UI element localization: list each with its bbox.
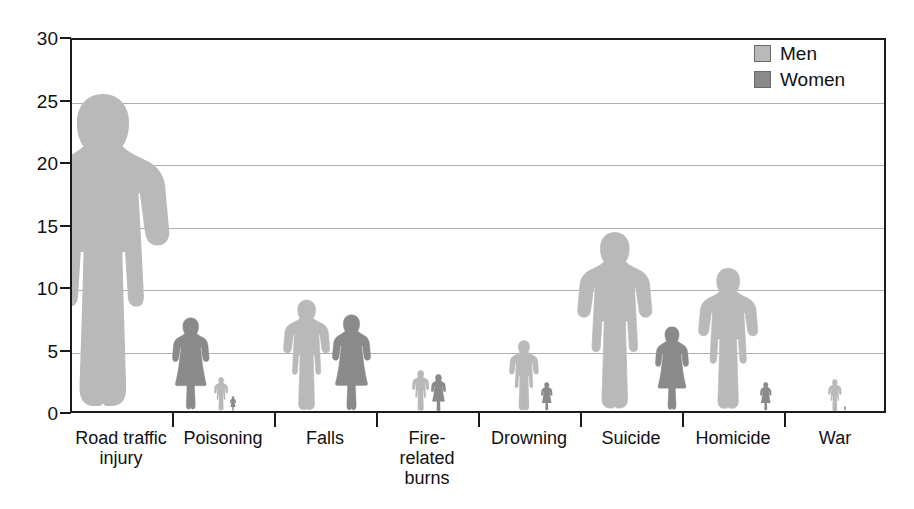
woman-figure-icon xyxy=(230,396,236,411)
x-axis-separator-tick xyxy=(376,413,378,427)
x-axis-category-label: Homicide xyxy=(682,428,784,448)
x-axis-ticks xyxy=(70,413,886,427)
legend-swatch-icon xyxy=(754,45,771,62)
legend-label: Women xyxy=(780,70,845,89)
man-figure-icon xyxy=(283,299,330,412)
figure-group xyxy=(378,40,480,411)
x-axis-separator-tick xyxy=(580,413,582,427)
y-axis-tick-mark xyxy=(60,37,71,39)
x-axis-category-label: Falls xyxy=(274,428,376,448)
woman-figure-icon xyxy=(431,374,446,412)
x-axis-separator-tick xyxy=(172,413,174,427)
legend-item-women[interactable]: Women xyxy=(754,70,874,89)
man-figure-icon xyxy=(509,340,539,411)
x-axis-category-label-line: Homicide xyxy=(682,428,784,448)
figure-group xyxy=(480,40,582,411)
y-axis-tick-mark xyxy=(60,412,71,414)
y-axis-tick-label: 20 xyxy=(24,154,58,173)
y-axis-tick-mark xyxy=(60,225,71,227)
x-axis-category-label-line: related xyxy=(376,448,478,468)
x-axis-separator-tick xyxy=(784,413,786,427)
pictograph-chart: 051015202530 Road trafficinjuryPoisoning… xyxy=(0,0,914,509)
figure-group xyxy=(276,40,378,411)
man-figure-icon xyxy=(828,379,842,412)
man-figure-icon xyxy=(214,377,228,411)
y-axis: 051015202530 xyxy=(0,0,58,509)
x-axis-category-label: Suicide xyxy=(580,428,682,448)
y-axis-tick-mark xyxy=(60,162,71,164)
x-axis-category-label: Poisoning xyxy=(172,428,274,448)
y-axis-tick-mark xyxy=(60,350,71,352)
x-axis-category-label-line: Suicide xyxy=(580,428,682,448)
x-axis-category-label: War xyxy=(784,428,886,448)
x-axis-separator-tick xyxy=(274,413,276,427)
man-figure-icon xyxy=(577,231,653,411)
y-axis-tick-label: 15 xyxy=(24,216,58,235)
man-figure-icon xyxy=(70,92,170,411)
x-axis-category-label-line: Road traffic xyxy=(70,428,172,448)
figure-group xyxy=(582,40,684,411)
man-figure-icon xyxy=(412,370,429,411)
woman-figure-icon xyxy=(844,406,846,411)
x-axis-category-label: Fire-relatedburns xyxy=(376,428,478,488)
woman-figure-icon xyxy=(760,382,772,411)
y-axis-tick-mark xyxy=(60,100,71,102)
x-axis-category-label-line: War xyxy=(784,428,886,448)
y-axis-tick-label: 5 xyxy=(24,341,58,360)
x-axis-category-label-line: Falls xyxy=(274,428,376,448)
woman-figure-icon xyxy=(332,314,371,412)
x-axis-category-label: Road trafficinjury xyxy=(70,428,172,468)
legend: MenWomen xyxy=(754,44,874,96)
y-axis-tick-mark xyxy=(60,287,71,289)
legend-item-men[interactable]: Men xyxy=(754,44,874,63)
y-axis-tick-label: 10 xyxy=(24,279,58,298)
x-axis-separator-tick xyxy=(682,413,684,427)
y-axis-tick-label: 25 xyxy=(24,91,58,110)
x-axis-category-label-line: Drowning xyxy=(478,428,580,448)
y-axis-tick-label: 0 xyxy=(24,404,58,423)
x-axis-category-label-line: Fire- xyxy=(376,428,478,448)
x-axis-category-label-line: injury xyxy=(70,448,172,468)
woman-figure-icon xyxy=(541,382,553,411)
figure-group xyxy=(72,40,174,411)
legend-label: Men xyxy=(780,44,817,63)
legend-swatch-icon xyxy=(754,71,771,88)
y-axis-tick-label: 30 xyxy=(24,29,58,48)
x-axis-separator-tick xyxy=(478,413,480,427)
x-axis-category-label-line: Poisoning xyxy=(172,428,274,448)
scan-artifact-band xyxy=(0,494,914,509)
x-axis-category-label: Drowning xyxy=(478,428,580,448)
figure-group xyxy=(174,40,276,411)
man-figure-icon xyxy=(698,267,758,411)
x-axis-category-label-line: burns xyxy=(376,468,478,488)
